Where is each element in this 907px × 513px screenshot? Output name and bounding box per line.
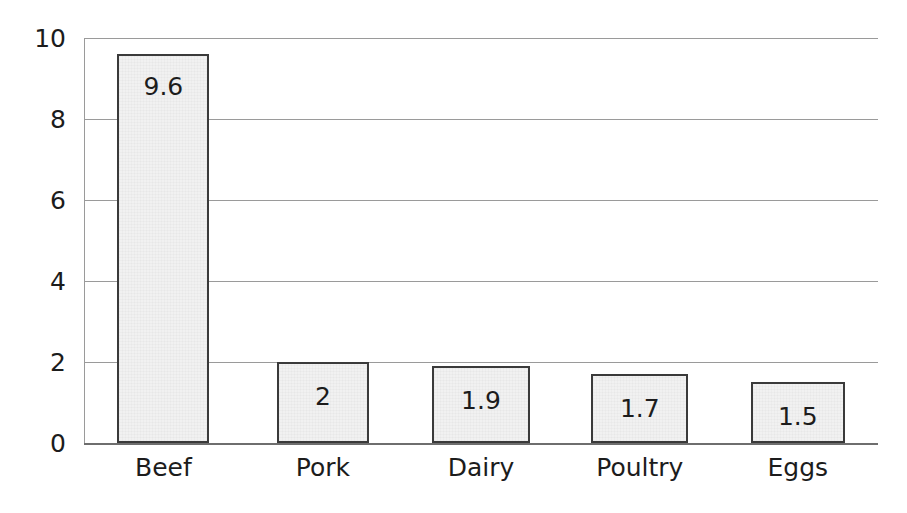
x-tick-label-dairy: Dairy bbox=[432, 455, 530, 480]
x-axis-baseline bbox=[84, 443, 878, 445]
y-tick-label: 8 bbox=[6, 107, 66, 132]
bar-value-label: 9.6 bbox=[119, 74, 207, 99]
bar-pork[interactable]: 2 bbox=[277, 362, 369, 443]
x-tick-label-eggs: Eggs bbox=[751, 455, 845, 480]
y-tick-label: 6 bbox=[6, 188, 66, 213]
y-tick-label: 10 bbox=[6, 26, 66, 51]
bar-value-label: 1.9 bbox=[434, 388, 528, 413]
bar-poultry[interactable]: 1.7 bbox=[591, 374, 688, 443]
bar-eggs[interactable]: 1.5 bbox=[751, 382, 845, 443]
y-axis-tick-labels: 0246810 bbox=[0, 38, 66, 443]
bar-dairy[interactable]: 1.9 bbox=[432, 366, 530, 443]
bar-value-label: 1.7 bbox=[593, 396, 686, 421]
y-tick-label: 4 bbox=[6, 269, 66, 294]
y-tick-label: 0 bbox=[6, 431, 66, 456]
bar-chart: 0246810 9.621.91.71.5 BeefPorkDairyPoult… bbox=[0, 0, 907, 513]
bar-beef[interactable]: 9.6 bbox=[117, 54, 209, 443]
gridline bbox=[84, 38, 878, 39]
x-tick-label-pork: Pork bbox=[277, 455, 369, 480]
bar-value-label: 2 bbox=[279, 384, 367, 409]
bar-value-label: 1.5 bbox=[753, 404, 843, 429]
x-tick-label-poultry: Poultry bbox=[591, 455, 688, 480]
plot-area: 9.621.91.71.5 bbox=[84, 38, 878, 443]
x-tick-label-beef: Beef bbox=[117, 455, 209, 480]
y-tick-label: 2 bbox=[6, 350, 66, 375]
